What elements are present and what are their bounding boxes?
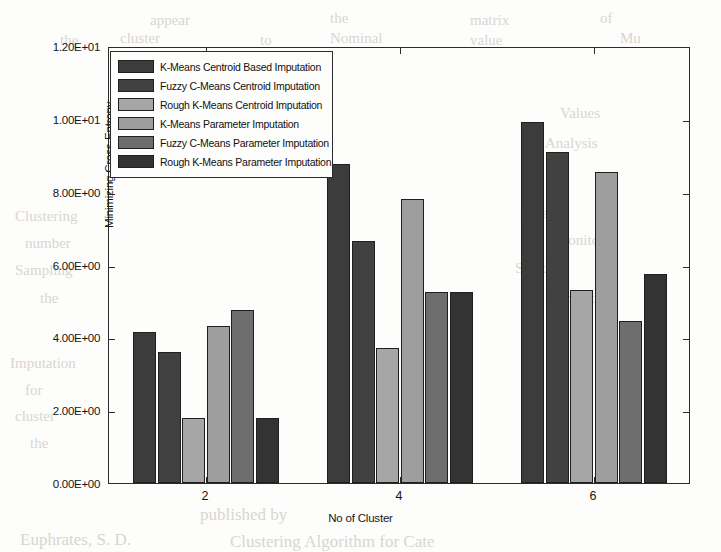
legend-item: Rough K-Means Centroid Imputation — [118, 95, 326, 114]
legend-item: K-Means Centroid Based Imputation — [118, 57, 326, 76]
bar — [207, 326, 230, 483]
bar — [546, 152, 569, 483]
bar — [158, 352, 181, 483]
y-tick-label: 8.00E+00 — [4, 187, 100, 199]
x-axis-title: No of Cluster — [0, 512, 721, 524]
y-tick-label: 0.00E+00 — [4, 478, 100, 490]
x-axis-tick — [594, 47, 595, 54]
bar — [376, 348, 399, 483]
legend-swatch-icon — [118, 136, 154, 149]
bar — [256, 418, 279, 483]
bar — [401, 199, 424, 483]
bar — [450, 292, 473, 483]
legend-swatch-icon — [118, 117, 154, 130]
legend-item: Rough K-Means Parameter Imputation — [118, 152, 326, 171]
y-axis-tick — [108, 339, 115, 340]
y-axis-tick — [683, 339, 690, 340]
bar — [182, 418, 205, 483]
y-axis-tick — [683, 412, 690, 413]
legend-label: Rough K-Means Parameter Imputation — [160, 156, 331, 168]
y-tick-label: 6.00E+00 — [4, 260, 100, 272]
y-tick-label: 2.00E+00 — [4, 405, 100, 417]
x-tick-label: 4 — [396, 489, 403, 503]
x-tick-label: 2 — [202, 489, 209, 503]
y-axis-tick — [108, 412, 115, 413]
y-tick-label: 1.00E+01 — [4, 114, 100, 126]
y-axis-tick — [683, 267, 690, 268]
x-tick-label: 6 — [590, 489, 597, 503]
bar — [327, 164, 350, 483]
legend-item: K-Means Parameter Imputation — [118, 114, 326, 133]
legend-label: Rough K-Means Centroid Imputation — [160, 99, 322, 111]
bar — [595, 172, 618, 483]
bar — [521, 122, 544, 483]
legend-swatch-icon — [118, 60, 154, 73]
bar — [570, 290, 593, 483]
y-tick-label: 4.00E+00 — [4, 332, 100, 344]
bar — [133, 332, 156, 483]
legend-item: Fuzzy C-Means Parameter Imputation — [118, 133, 326, 152]
legend-label: K-Means Parameter Imputation — [160, 118, 299, 130]
legend-swatch-icon — [118, 155, 154, 168]
chart-legend: K-Means Centroid Based ImputationFuzzy C… — [110, 51, 333, 178]
legend-label: Fuzzy C-Means Centroid Imputation — [160, 80, 320, 92]
bar — [644, 274, 667, 483]
y-axis-tick — [683, 121, 690, 122]
bar — [352, 241, 375, 483]
legend-swatch-icon — [118, 98, 154, 111]
bar — [619, 321, 642, 483]
y-tick-label: 1.20E+01 — [4, 41, 100, 53]
y-axis-tick — [108, 194, 115, 195]
legend-label: K-Means Centroid Based Imputation — [160, 61, 321, 73]
x-axis-tick — [400, 47, 401, 54]
y-axis-tick — [683, 194, 690, 195]
y-axis-tick — [108, 267, 115, 268]
bar — [231, 310, 254, 483]
legend-swatch-icon — [118, 79, 154, 92]
legend-label: Fuzzy C-Means Parameter Imputation — [160, 137, 329, 149]
legend-item: Fuzzy C-Means Centroid Imputation — [118, 76, 326, 95]
bar — [425, 292, 448, 483]
